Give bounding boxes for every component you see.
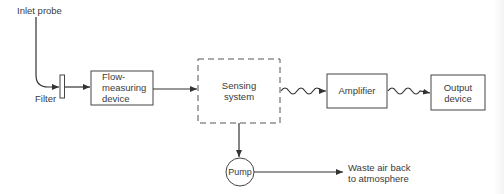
pump-label: Pump [226,167,254,178]
amplifier-label: Amplifier [327,85,387,96]
inlet-probe-label: Inlet probe [17,5,62,16]
filter-label: Filter [35,93,56,104]
inlet-probe-line [36,17,59,87]
amplifier-to-output-signal [388,88,430,94]
filter-element [60,75,65,98]
sensing-to-amplifier-signal [281,88,326,94]
waste-air-label: Waste air back to atmosphere [348,162,410,184]
page-edge-shadow [494,0,504,194]
sensing-system-label: Sensing system [200,80,278,102]
output-device-label: Output device [431,82,485,104]
flow-measuring-device-label: Flow- measuring device [102,71,146,104]
